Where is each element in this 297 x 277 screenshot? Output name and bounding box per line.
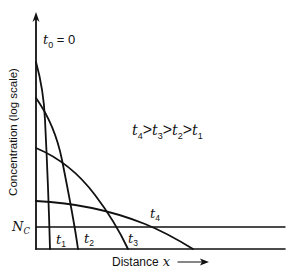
curve-label-t3: t3 <box>128 231 138 248</box>
threshold-label: NC <box>11 219 30 236</box>
x-axis-arrow-icon <box>178 259 209 266</box>
curve-label-t2: t2 <box>84 231 94 248</box>
diffusion-profile-diagram: Concentration (log scale) t0 = 0 NC t1 t… <box>0 0 297 277</box>
y-axis <box>33 12 40 249</box>
y-axis-label: Concentration (log scale) <box>7 68 19 196</box>
curve-label-t4: t4 <box>150 206 160 223</box>
curve-label-t1: t1 <box>56 232 66 249</box>
x-axis-label: Distancex <box>112 254 171 269</box>
time-relation: t4>t3>t2>t1 <box>132 121 203 141</box>
profile-curve-t1 <box>36 62 50 249</box>
initial-time-label: t0 = 0 <box>43 32 75 50</box>
